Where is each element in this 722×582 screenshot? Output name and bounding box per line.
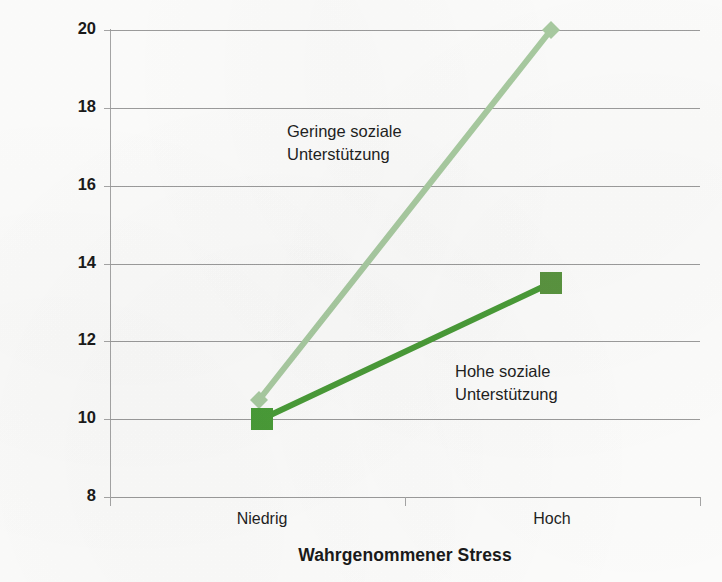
series-line-low-support bbox=[259, 30, 551, 400]
annotation-high-support-line2: Unterstützung bbox=[455, 383, 558, 406]
series-layer bbox=[0, 0, 722, 582]
annotation-low-support-line2: Unterstützung bbox=[287, 143, 402, 166]
annotation-high-support-line1: Hohe soziale bbox=[455, 360, 558, 383]
marker-high-support-niedrig bbox=[251, 408, 273, 430]
marker-high-support-hoch bbox=[540, 272, 562, 294]
interaction-line-chart: Physische Symptomatik 20 18 16 14 12 10 … bbox=[0, 0, 722, 582]
annotation-low-support: Geringe soziale Unterstützung bbox=[287, 120, 402, 167]
annotation-low-support-line1: Geringe soziale bbox=[287, 120, 402, 143]
annotation-high-support: Hohe soziale Unterstützung bbox=[455, 360, 558, 407]
